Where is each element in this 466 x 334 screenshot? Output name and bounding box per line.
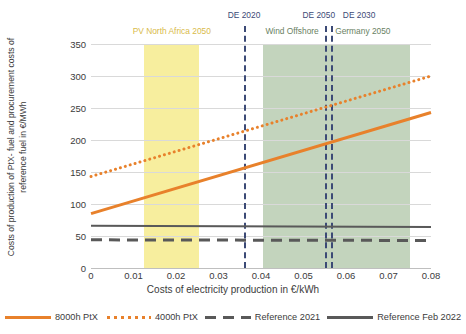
chart-figure: Costs of production of PtX- fuel and pro… (0, 0, 466, 334)
y-tick-label: 100 (56, 199, 86, 210)
annotation-pv-north-africa-2050: PV North Africa 2050 (133, 26, 211, 36)
y-tick-label: 250 (56, 103, 86, 114)
chart-legend: 8000h PtX 4000h PtX Reference 2021 Refer… (0, 306, 466, 328)
x-tick-label: 0.03 (209, 270, 228, 281)
y-axis-tick-labels: 050100150200250300350 (52, 44, 86, 268)
x-axis-title: Costs of electricity production in €/kWh (0, 284, 466, 295)
legend-label: 4000h PtX (155, 312, 198, 322)
x-tick-label: 0.07 (379, 270, 398, 281)
gridline-y-0 (91, 268, 431, 269)
plot-area (91, 44, 431, 268)
annotation-de-2030: DE 2030 (343, 10, 376, 20)
x-tick-label: 0.02 (167, 270, 186, 281)
y-tick-label: 150 (56, 167, 86, 178)
annotation-germany-2050: Germany 2050 (335, 26, 390, 36)
annotation-de-2020: DE 2020 (228, 10, 261, 20)
y-tick-label: 50 (56, 231, 86, 242)
legend-swatch-solid-orange-icon (5, 316, 51, 319)
y-tick-label: 200 (56, 135, 86, 146)
series-line-8000h-ptx (91, 112, 431, 213)
x-tick-label: 0.04 (252, 270, 271, 281)
legend-item-4000h-ptx[interactable]: 4000h PtX (105, 312, 198, 322)
legend-label: Reference Feb 2022 (377, 312, 461, 322)
legend-swatch-dashed-gray-icon (205, 316, 251, 319)
legend-item-8000h-ptx[interactable]: 8000h PtX (5, 312, 98, 322)
legend-item-reference-2021[interactable]: Reference 2021 (205, 312, 320, 322)
x-tick-label: 0.08 (422, 270, 441, 281)
y-tick-label: 300 (56, 71, 86, 82)
x-tick-label: 0 (88, 270, 93, 281)
y-tick-label: 350 (56, 39, 86, 50)
legend-label: Reference 2021 (255, 312, 320, 322)
annotation-de-2050: DE 2050 (302, 10, 335, 20)
legend-swatch-solid-gray-icon (327, 316, 373, 319)
y-tick-label: 0 (56, 263, 86, 274)
series-line-reference-feb-2022 (91, 226, 431, 227)
series-line-reference-2021 (91, 240, 431, 241)
annotation-wind-offshore: Wind Offshore (265, 26, 318, 36)
legend-swatch-dotted-orange-icon (105, 316, 151, 319)
data-series-layer (91, 44, 431, 268)
x-axis-tick-labels: 00.010.020.030.040.050.060.070.08 (91, 270, 431, 284)
x-tick-label: 0.01 (124, 270, 143, 281)
legend-item-reference-feb-2022[interactable]: Reference Feb 2022 (327, 312, 461, 322)
y-axis-title: Costs of production of PtX- fuel and pro… (6, 21, 29, 273)
x-tick-label: 0.05 (294, 270, 313, 281)
y-axis-title-container: Costs of production of PtX- fuel and pro… (0, 18, 34, 276)
x-tick-label: 0.06 (337, 270, 356, 281)
legend-label: 8000h PtX (55, 312, 98, 322)
